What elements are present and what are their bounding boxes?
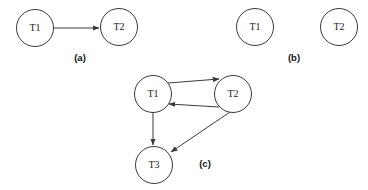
panel-caption-a: (a)	[74, 52, 86, 63]
edge-c-t2-to-t1	[169, 104, 219, 107]
figure-canvas: T1 T2 (a) T1 T2 (b)	[0, 0, 368, 190]
node-a-t1[interactable]: T1	[17, 10, 54, 47]
node-label-a-t1: T1	[29, 22, 40, 33]
panel-b: T1 T2 (b)	[237, 9, 358, 63]
node-label-c-t3: T3	[148, 159, 159, 170]
node-label-b-t2: T2	[333, 21, 344, 32]
panel-caption-b: (b)	[288, 52, 300, 63]
node-label-b-t1: T1	[249, 21, 260, 32]
node-b-t1[interactable]: T1	[237, 9, 274, 46]
node-c-t1[interactable]: T1	[135, 76, 172, 113]
node-label-c-t1: T1	[147, 88, 158, 99]
node-label-a-t2: T2	[113, 21, 124, 32]
node-b-t2[interactable]: T2	[321, 9, 358, 46]
edge-c-t2-to-t3	[171, 112, 230, 152]
panel-c: T1 T2 T3 (c)	[135, 76, 252, 184]
node-a-t2[interactable]: T2	[101, 9, 138, 46]
panel-caption-c: (c)	[199, 158, 211, 169]
node-c-t3[interactable]: T3	[136, 147, 173, 184]
panel-a: T1 T2 (a)	[17, 9, 138, 63]
edge-c-t1-to-t2	[168, 79, 219, 83]
precedence-graph-figure: T1 T2 (a) T1 T2 (b)	[0, 0, 368, 190]
node-c-t2[interactable]: T2	[215, 76, 252, 113]
node-label-c-t2: T2	[227, 88, 238, 99]
